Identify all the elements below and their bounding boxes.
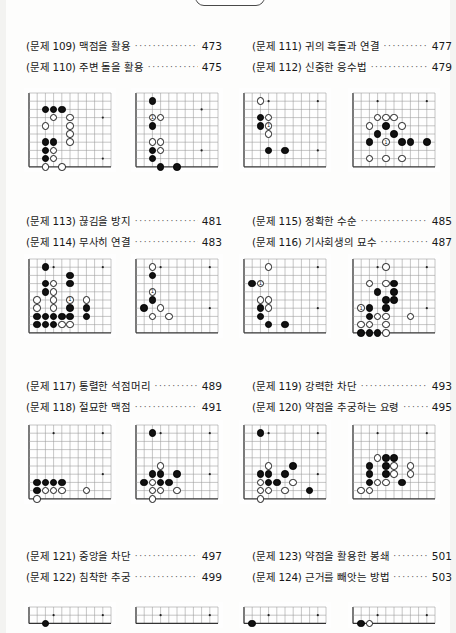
toc-entry[interactable]: (문제 113) 끊김을 방지····················481 — [26, 213, 222, 234]
toc-leader-dots: ··············· — [371, 62, 428, 72]
white-stone — [407, 462, 415, 470]
white-stone: 1 — [149, 114, 157, 122]
stone-move-number: 1 — [150, 289, 156, 295]
toc-leader-dots: ···················· — [135, 41, 198, 51]
toc-page-number: 497 — [202, 550, 222, 562]
black-stone — [66, 313, 74, 321]
black-stone — [58, 313, 66, 321]
toc-entry-label: (문제 116) 기사회생의 묘수 — [252, 234, 376, 249]
go-board-diagram — [239, 420, 331, 504]
white-stone — [173, 487, 181, 495]
toc-entry-label: (문제 117) 통렬한 석점머리 — [26, 378, 150, 393]
white-stone — [58, 487, 66, 495]
stone-move-number: 1 — [383, 139, 389, 145]
board-grid — [131, 254, 223, 338]
white-stone — [289, 479, 297, 487]
toc-entry[interactable]: (문제 118) 절묘한 맥점····················491 — [26, 399, 222, 420]
white-stone — [382, 114, 390, 122]
toc-leader-dots: ········· — [393, 551, 427, 561]
white-stone — [257, 495, 265, 503]
go-board-diagram: 1 — [239, 88, 331, 172]
white-stone — [265, 130, 273, 138]
toc-entry-label: (문제 114) 무사히 연결 — [26, 234, 131, 249]
stone-move-number: 1 — [358, 305, 364, 311]
black-stone — [382, 454, 390, 462]
black-stone — [374, 130, 382, 138]
white-stone — [382, 280, 390, 288]
white-stone: 1 — [382, 138, 390, 146]
white-stone — [42, 122, 50, 130]
black-stone — [257, 470, 265, 478]
go-board-diagram — [348, 602, 440, 628]
board-grid — [131, 88, 223, 172]
black-stone — [390, 280, 398, 288]
toc-leader-dots: ········· — [393, 572, 427, 582]
black-stone — [390, 296, 398, 304]
white-stone — [66, 114, 74, 122]
toc-entry[interactable]: (문제 111) 귀의 흑돌과 연결··············477 — [252, 38, 452, 59]
toc-entry-label: (문제 113) 끊김을 방지 — [26, 213, 131, 228]
white-stone — [382, 313, 390, 321]
black-stone — [66, 280, 74, 288]
black-stone — [374, 329, 382, 337]
toc-leader-dots: ··············· — [148, 62, 198, 72]
toc-entry-label: (문제 115) 정확한 수순 — [252, 213, 357, 228]
white-stone — [382, 329, 390, 337]
white-stone — [374, 454, 382, 462]
book-page: (문제 109) 맥점을 활용····················473(문… — [0, 0, 456, 633]
black-stone — [42, 288, 50, 296]
black-stone — [390, 454, 398, 462]
toc-entry-label: (문제 122) 침착한 추궁 — [26, 569, 131, 584]
toc-page-number: 477 — [432, 40, 452, 52]
black-stone — [58, 479, 66, 487]
toc-entry[interactable]: (문제 110) 주변 돌을 활용···············475 — [26, 59, 222, 80]
black-stone — [149, 97, 157, 105]
black-stone — [390, 130, 398, 138]
toc-leader-dots: ···················· — [135, 216, 198, 226]
white-stone: 1 — [66, 296, 74, 304]
toc-entry[interactable]: (문제 109) 맥점을 활용····················473 — [26, 38, 222, 59]
toc-entry[interactable]: (문제 120) 약점을 추궁하는 요령········495 — [252, 399, 452, 420]
black-stone — [382, 122, 390, 130]
toc-page-number: 479 — [432, 61, 452, 73]
black-stone — [149, 470, 157, 478]
white-stone — [390, 462, 398, 470]
white-stone — [33, 495, 41, 503]
toc-entry[interactable]: (문제 123) 약점을 활용한 봉쇄·········501 — [252, 548, 452, 569]
black-stone — [257, 429, 265, 437]
black-stone — [281, 470, 289, 478]
white-stone — [265, 462, 273, 470]
go-board-diagram — [24, 602, 116, 628]
black-stone — [357, 620, 365, 628]
black-stone — [173, 163, 181, 171]
white-stone — [50, 296, 58, 304]
white-stone — [58, 163, 66, 171]
toc-entry[interactable]: (문제 115) 정확한 수순····················485 — [252, 213, 452, 234]
white-stone — [66, 138, 74, 146]
white-stone — [257, 296, 265, 304]
toc-entry[interactable]: (문제 119) 강력한 차단····················493 — [252, 378, 452, 399]
toc-entry[interactable]: (문제 122) 침착한 추궁····················499 — [26, 569, 222, 590]
toc-page-number: 481 — [202, 215, 222, 227]
toc-page-number: 501 — [432, 550, 452, 562]
go-board-diagram: 1 — [239, 254, 331, 338]
toc-entry[interactable]: (문제 121) 중앙을 차단····················497 — [26, 548, 222, 569]
white-stone — [66, 321, 74, 329]
top-header-chip — [195, 0, 265, 6]
toc-page-number: 491 — [202, 401, 222, 413]
black-stone — [366, 304, 374, 312]
black-stone — [366, 138, 374, 146]
stone-move-number: 1 — [67, 297, 73, 303]
black-stone — [157, 163, 165, 171]
toc-page-number: 485 — [432, 215, 452, 227]
black-stone — [42, 138, 50, 146]
go-board-diagram: 1 — [348, 88, 440, 172]
toc-page-number: 473 — [202, 40, 222, 52]
go-board-diagram — [131, 602, 223, 628]
toc-entry[interactable]: (문제 124) 근거를 빼앗는 방법·········503 — [252, 569, 452, 590]
black-stone — [33, 313, 41, 321]
black-stone — [398, 479, 406, 487]
toc-entry[interactable]: (문제 117) 통렬한 석점머리··············489 — [26, 378, 222, 399]
toc-page-number: 503 — [432, 571, 452, 583]
toc-entry[interactable]: (문제 112) 신중한 응수법···············479 — [252, 59, 452, 80]
